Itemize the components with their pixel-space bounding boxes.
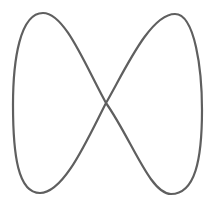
figure-eight-drawing xyxy=(0,0,211,206)
figure-canvas xyxy=(0,0,211,206)
figure-eight-curve xyxy=(13,13,202,194)
